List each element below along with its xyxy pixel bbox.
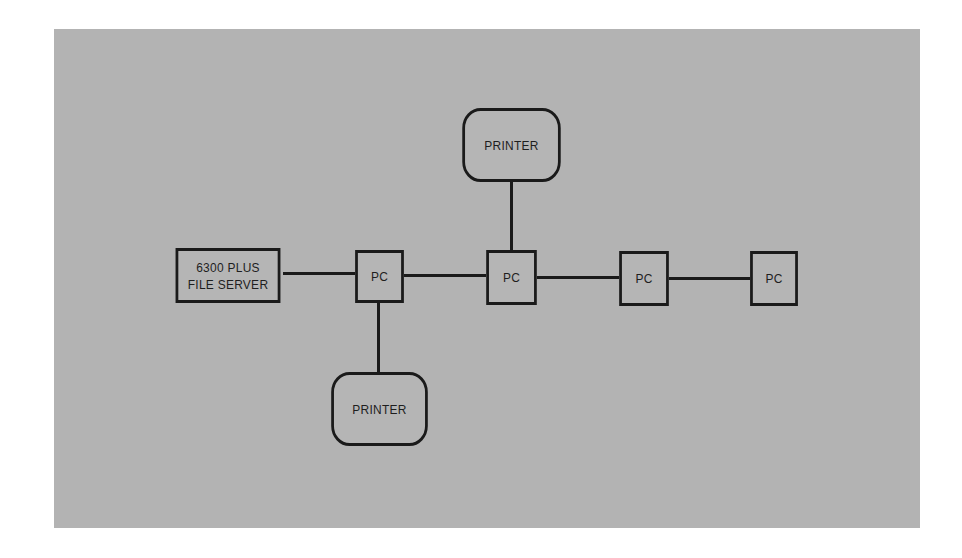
printer-node-top: PRINTER <box>462 108 560 182</box>
edge-pc3-pc4 <box>669 277 750 280</box>
edge-server-pc1 <box>283 272 355 275</box>
file-server-label: 6300 PLUS FILE SERVER <box>188 259 269 293</box>
edge-pc2-pc3 <box>537 276 619 279</box>
printer-label: PRINTER <box>352 401 406 418</box>
pc-label: PC <box>765 270 782 287</box>
printer-label: PRINTER <box>484 137 538 154</box>
edge-pc1-pc2 <box>404 274 486 277</box>
pc-node-4: PC <box>750 251 798 306</box>
pc-node-3: PC <box>619 251 669 306</box>
pc-node-1: PC <box>355 250 404 303</box>
pc-label: PC <box>635 270 652 287</box>
printer-node-bottom: PRINTER <box>331 372 428 446</box>
pc-node-2: PC <box>486 250 537 305</box>
pc-label: PC <box>503 269 520 286</box>
file-server-node: 6300 PLUS FILE SERVER <box>176 248 281 303</box>
pc-label: PC <box>371 268 388 285</box>
edge-pc1-printer-bottom <box>377 301 380 374</box>
edge-pc2-printer-top <box>510 180 513 252</box>
